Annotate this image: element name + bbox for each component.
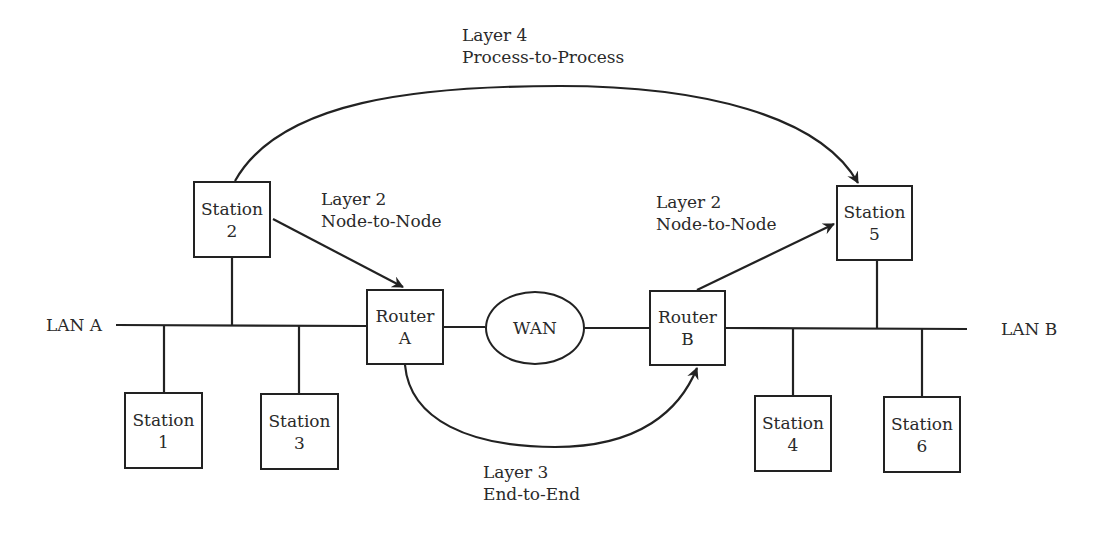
station-2: Station 2 — [193, 181, 271, 258]
station-3: Station 3 — [260, 393, 339, 470]
station-1: Station 1 — [124, 392, 203, 469]
wan-cloud: WAN — [485, 291, 585, 365]
layer3-label: Layer 3 End-to-End — [483, 461, 580, 505]
router-a: Router A — [366, 289, 444, 365]
station-6: Station 6 — [883, 396, 961, 473]
lan-b-line — [726, 328, 967, 329]
lan-a-line — [116, 325, 366, 326]
lan-a-label: LAN A — [46, 314, 102, 336]
layer3-arrow — [405, 365, 697, 447]
layer2-left-label: Layer 2 Node-to-Node — [321, 188, 442, 232]
station-4: Station 4 — [754, 395, 832, 472]
layer4-arrow — [235, 86, 858, 183]
station-5: Station 5 — [836, 185, 913, 261]
router-b: Router B — [649, 290, 726, 366]
layer2-right-label: Layer 2 Node-to-Node — [656, 191, 777, 235]
layer4-label: Layer 4 Process-to-Process — [462, 24, 624, 68]
lan-b-label: LAN B — [1001, 318, 1057, 340]
